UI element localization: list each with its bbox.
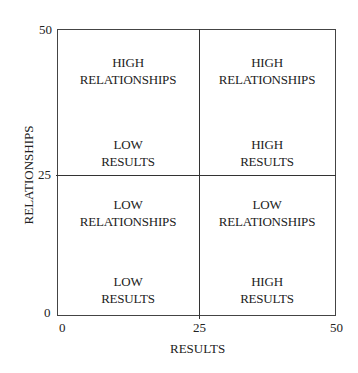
- y-tick-25: 25: [38, 168, 51, 182]
- x-tick-0: 0: [59, 321, 66, 335]
- quadrant-bottom-right-relationships: LOW RELATIONSHIPS: [202, 196, 332, 230]
- y-tick-0: 0: [44, 306, 51, 320]
- quadrant-bottom-left-results: LOW RESULTS: [63, 273, 193, 307]
- quadrant-top-left-relationships: HIGH RELATIONSHIPS: [63, 54, 193, 88]
- label-line: HIGH: [202, 54, 332, 71]
- label-line: RESULTS: [63, 153, 193, 170]
- quadrant-bottom-right-results: HIGH RESULTS: [202, 273, 332, 307]
- y-tick-50: 50: [39, 23, 52, 37]
- label-line: LOW: [63, 273, 193, 290]
- label-line: RELATIONSHIPS: [202, 213, 332, 230]
- label-line: RELATIONSHIPS: [202, 71, 332, 88]
- label-line: LOW: [63, 136, 193, 153]
- label-line: HIGH: [63, 54, 193, 71]
- x-axis-title: RESULTS: [170, 341, 225, 357]
- label-line: RESULTS: [202, 153, 332, 170]
- label-line: HIGH: [202, 136, 332, 153]
- label-line: RELATIONSHIPS: [63, 71, 193, 88]
- label-line: RESULTS: [202, 290, 332, 307]
- x-tick-50: 50: [330, 321, 343, 335]
- label-line: RELATIONSHIPS: [63, 213, 193, 230]
- quadrant-top-left-results: LOW RESULTS: [63, 136, 193, 170]
- label-line: RESULTS: [63, 290, 193, 307]
- label-line: HIGH: [202, 273, 332, 290]
- y-axis-title: RELATIONSHIPS: [21, 126, 37, 225]
- quadrant-bottom-left-relationships: LOW RELATIONSHIPS: [63, 196, 193, 230]
- quadrant-top-right-results: HIGH RESULTS: [202, 136, 332, 170]
- quadrant-top-right-relationships: HIGH RELATIONSHIPS: [202, 54, 332, 88]
- vertical-divider: [199, 29, 200, 319]
- x-tick-25: 25: [193, 321, 206, 335]
- label-line: LOW: [63, 196, 193, 213]
- horizontal-divider: [56, 175, 336, 176]
- label-line: LOW: [202, 196, 332, 213]
